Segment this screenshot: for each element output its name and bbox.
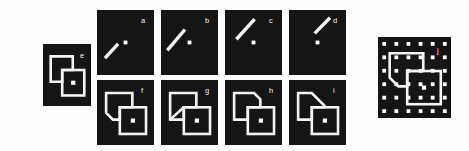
panel-graphic-a — [97, 10, 154, 75]
grid-dot — [407, 109, 411, 113]
diagonal-line — [170, 107, 184, 119]
grid-dot — [382, 109, 386, 113]
panel-graphic-i — [289, 80, 346, 145]
grid-dot — [382, 82, 386, 86]
oblique-line-segment — [167, 30, 185, 51]
stimulus-panel-i — [289, 80, 346, 145]
panel-label-a: a — [141, 17, 145, 25]
stimulus-panel-a — [97, 10, 154, 75]
grid-dot — [382, 69, 386, 73]
grid-dot — [431, 109, 435, 113]
figure-stimulus-array: eabcdfghij — [0, 0, 469, 151]
panel-label-b: b — [205, 17, 209, 25]
stimulus-panel-b — [161, 10, 218, 75]
oblique-line-segment — [315, 18, 330, 34]
oblique-line-segment — [236, 19, 254, 39]
stimulus-panel-d — [289, 10, 346, 75]
grid-dot — [419, 42, 423, 46]
center-dot — [252, 41, 256, 45]
grid-dot — [394, 55, 398, 59]
panel-label-e: e — [80, 52, 84, 60]
panel-graphic-g — [161, 80, 218, 145]
grid-dot — [382, 55, 386, 59]
center-dot — [316, 41, 320, 45]
overlapping-squares-group — [51, 56, 85, 95]
grid-dot — [394, 96, 398, 100]
grid-dot — [431, 55, 435, 59]
grid-dot — [443, 55, 447, 59]
center-dot — [71, 81, 75, 85]
center-dot — [259, 119, 263, 123]
panel-graphic-f — [97, 80, 154, 145]
grid-dot — [419, 55, 423, 59]
grid-dot — [443, 96, 447, 100]
panel-graphic-c — [225, 10, 282, 75]
stimulus-panel-h — [225, 80, 282, 145]
overlapping-squares-group — [106, 93, 146, 134]
center-dot — [124, 41, 128, 45]
panel-label-h: h — [269, 87, 273, 95]
panel-label-j: j — [437, 47, 439, 55]
panel-label-c: c — [269, 17, 273, 25]
overlapping-squares-group — [298, 93, 338, 134]
grid-dot — [419, 96, 423, 100]
grid-dot — [394, 42, 398, 46]
grid-dot — [394, 109, 398, 113]
panel-label-d: d — [333, 17, 337, 25]
grid-dot — [443, 69, 447, 73]
stimulus-panel-c — [225, 10, 282, 75]
center-dot — [195, 119, 199, 123]
grid-dot — [382, 42, 386, 46]
overlapping-squares-group — [170, 93, 210, 134]
panel-graphic-j — [378, 37, 451, 118]
oblique-line-segment — [105, 44, 118, 58]
grid-dot — [407, 42, 411, 46]
panel-label-f: f — [141, 87, 143, 95]
grid-dot — [431, 42, 435, 46]
panel-graphic-b — [161, 10, 218, 75]
grid-dot — [419, 82, 423, 86]
stimulus-panel-g — [161, 80, 218, 145]
grid-dot — [443, 109, 447, 113]
center-dot — [188, 41, 192, 45]
grid-dot — [443, 42, 447, 46]
grid-dot — [431, 82, 435, 86]
stimulus-panel-f — [97, 80, 154, 145]
grid-dot — [407, 55, 411, 59]
grid-dot — [419, 109, 423, 113]
overlapping-squares-group — [234, 93, 274, 134]
grid-dot — [382, 96, 386, 100]
panel-label-i: i — [333, 87, 335, 95]
grid-dot — [443, 82, 447, 86]
panel-label-g: g — [205, 87, 209, 95]
panel-graphic-d — [289, 10, 346, 75]
center-dot — [422, 86, 426, 90]
grid-dot — [431, 96, 435, 100]
panel-graphic-h — [225, 80, 282, 145]
stimulus-panel-j — [378, 37, 451, 118]
center-dot — [131, 119, 135, 123]
grid-dot — [394, 69, 398, 73]
center-dot — [323, 119, 327, 123]
